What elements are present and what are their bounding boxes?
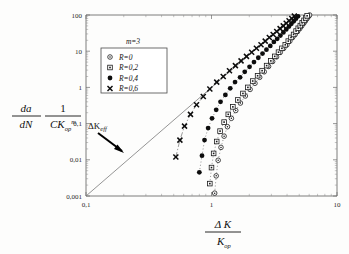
legend-item-label: R=0,6: [118, 84, 138, 93]
data-point: [264, 47, 269, 52]
legend-marker-open-square-dot: [109, 67, 111, 69]
data-point: [216, 141, 218, 143]
data-point: [206, 126, 211, 131]
data-point: [227, 126, 229, 128]
data-point: [217, 160, 219, 162]
data-point: [306, 15, 308, 17]
data-point: [274, 56, 276, 58]
data-point: [228, 86, 233, 91]
y-tick-label: 0,001: [66, 193, 82, 201]
data-point: [278, 51, 280, 53]
data-point: [209, 183, 211, 185]
y-label-one: 1: [60, 102, 66, 114]
data-point: [256, 55, 261, 60]
data-point: [268, 44, 273, 49]
legend-marker-open-circle-dot: [109, 56, 111, 58]
data-point: [213, 153, 215, 155]
data-point: [247, 87, 249, 89]
data-point: [232, 106, 234, 108]
data-point: [293, 34, 295, 36]
data-point: [227, 114, 229, 116]
data-point: [200, 153, 205, 158]
y-label-da: da: [21, 102, 33, 114]
data-point: [257, 75, 259, 77]
x-tick-label: 10: [334, 201, 342, 209]
legend-item-label: R=0,4: [118, 74, 138, 83]
data-point: [214, 107, 219, 112]
y-tick-label: 10: [75, 48, 83, 56]
data-point: [270, 60, 272, 62]
y-label-dn: dN: [20, 118, 34, 130]
data-point: [260, 51, 265, 56]
data-point: [242, 93, 244, 95]
legend-marker-filled-circle: [108, 76, 113, 81]
data-point: [219, 130, 221, 132]
data-point: [247, 64, 252, 69]
legend-item-label: R=0,2: [118, 63, 138, 72]
data-point: [215, 175, 217, 177]
data-point: [223, 121, 225, 123]
data-point: [202, 138, 207, 143]
x-tick-label: 1: [210, 201, 214, 209]
data-point: [210, 116, 215, 121]
data-point: [214, 192, 216, 194]
data-point: [287, 40, 289, 42]
data-point: [223, 135, 225, 137]
y-tick-label: 0,01: [70, 156, 83, 164]
figure-container: 0,11100,0010,010,1110100 ΔKeff m=3 R=0R=…: [0, 0, 349, 254]
data-point: [252, 80, 254, 82]
y-tick-label: 1: [79, 84, 83, 92]
data-point: [261, 70, 263, 72]
data-point: [211, 167, 213, 169]
legend-item-label: R=0: [118, 53, 133, 62]
data-point: [237, 99, 239, 101]
data-point: [252, 60, 257, 65]
data-point: [223, 93, 228, 98]
data-point: [233, 80, 238, 85]
data-point: [231, 118, 233, 120]
log-log-scatter-chart: 0,11100,0010,010,1110100 ΔKeff m=3 R=0R=…: [0, 0, 349, 254]
data-point: [281, 48, 283, 50]
data-point: [220, 147, 222, 149]
x-tick-label: 0,1: [82, 201, 91, 209]
legend-parameter-label: m=3: [126, 37, 140, 46]
data-point: [266, 65, 268, 67]
data-point: [284, 44, 286, 46]
data-point: [242, 69, 247, 74]
data-point: [235, 110, 237, 112]
y-tick-label: 100: [72, 12, 83, 20]
x-label-delta-k: Δ K: [214, 218, 232, 230]
data-point: [218, 99, 223, 104]
data-point: [238, 75, 243, 80]
data-point: [197, 170, 202, 175]
